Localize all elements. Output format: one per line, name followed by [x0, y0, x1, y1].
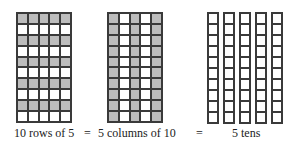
rod-cell	[224, 46, 234, 57]
grid-cell	[151, 46, 162, 57]
equals-sign-2: =	[196, 126, 203, 140]
grid-cell	[39, 111, 50, 122]
rod-cell	[256, 57, 266, 68]
rod-cell	[240, 35, 250, 46]
grid-cell	[60, 78, 71, 89]
rod-cell	[272, 46, 282, 57]
rod-cell	[224, 24, 234, 35]
rod-cell	[208, 79, 218, 90]
rod-cell	[256, 24, 266, 35]
grid-cell	[119, 100, 130, 111]
ten-rod	[207, 12, 219, 124]
rod-cell	[224, 101, 234, 112]
grid-cell	[151, 67, 162, 78]
grid-cell	[151, 35, 162, 46]
grid-cell	[28, 24, 39, 35]
rows-label: 10 rows of 5	[14, 126, 74, 140]
rod-cell	[256, 13, 266, 24]
tens-rods	[207, 12, 283, 124]
ten-rod	[255, 12, 267, 124]
grid-cell	[108, 67, 119, 78]
grid-cell	[28, 111, 39, 122]
rod-cell	[224, 79, 234, 90]
rod-cell	[256, 112, 266, 123]
grid-cell	[17, 13, 28, 24]
grid-cell	[119, 46, 130, 57]
grid-cell	[130, 67, 141, 78]
grid-cell	[39, 100, 50, 111]
grid-cell	[39, 78, 50, 89]
rod-cell	[272, 79, 282, 90]
grid-cell	[49, 35, 60, 46]
grid-cell	[39, 24, 50, 35]
rod-cell	[240, 90, 250, 101]
grid-cell	[49, 111, 60, 122]
rod-cell	[272, 24, 282, 35]
grid-cell	[130, 111, 141, 122]
rod-cell	[256, 46, 266, 57]
grid-cell	[39, 13, 50, 24]
rod-cell	[256, 35, 266, 46]
grid-cell	[17, 57, 28, 68]
grid-cell	[28, 100, 39, 111]
grid-cell	[60, 24, 71, 35]
grid-cell	[140, 67, 151, 78]
grid-cell	[49, 13, 60, 24]
rod-cell	[208, 35, 218, 46]
rod-cell	[256, 79, 266, 90]
grid-cell	[49, 100, 60, 111]
grid-cell	[130, 100, 141, 111]
rows-grid	[16, 12, 72, 123]
grid-cell	[60, 67, 71, 78]
grid-cell	[28, 78, 39, 89]
ten-rod	[271, 12, 283, 124]
grid-cell	[17, 111, 28, 122]
grid-cell	[108, 89, 119, 100]
rod-cell	[208, 112, 218, 123]
grid-cell	[60, 111, 71, 122]
rod-cell	[256, 101, 266, 112]
grid-cell	[17, 35, 28, 46]
grid-cell	[108, 46, 119, 57]
grid-cell	[108, 57, 119, 68]
grid-cell	[151, 24, 162, 35]
rod-cell	[224, 13, 234, 24]
rod-cell	[256, 68, 266, 79]
grid-cell	[17, 89, 28, 100]
grid-cell	[108, 100, 119, 111]
grid-cell	[17, 46, 28, 57]
grid-cell	[28, 57, 39, 68]
rod-cell	[272, 68, 282, 79]
rod-cell	[208, 24, 218, 35]
grid-cell	[151, 13, 162, 24]
grid-cell	[108, 24, 119, 35]
grid-cell	[60, 35, 71, 46]
grid-cell	[140, 111, 151, 122]
rod-cell	[240, 112, 250, 123]
grid-cell	[151, 78, 162, 89]
rod-cell	[272, 57, 282, 68]
grid-cell	[60, 100, 71, 111]
columns-label: 5 columns of 10	[98, 126, 176, 140]
grid-cell	[108, 111, 119, 122]
columns-grid	[107, 12, 163, 123]
grid-cell	[60, 57, 71, 68]
grid-cell	[28, 35, 39, 46]
grid-cell	[39, 46, 50, 57]
rod-cell	[240, 13, 250, 24]
grid-cell	[151, 57, 162, 68]
grid-cell	[130, 24, 141, 35]
grid-cell	[39, 35, 50, 46]
grid-cell	[130, 89, 141, 100]
grid-cell	[17, 24, 28, 35]
grid-cell	[28, 46, 39, 57]
grid-cell	[28, 89, 39, 100]
rod-cell	[256, 90, 266, 101]
grid-cell	[130, 13, 141, 24]
rod-cell	[208, 90, 218, 101]
rod-cell	[208, 101, 218, 112]
rod-cell	[224, 68, 234, 79]
rod-cell	[240, 46, 250, 57]
grid-cell	[108, 13, 119, 24]
rod-cell	[240, 101, 250, 112]
